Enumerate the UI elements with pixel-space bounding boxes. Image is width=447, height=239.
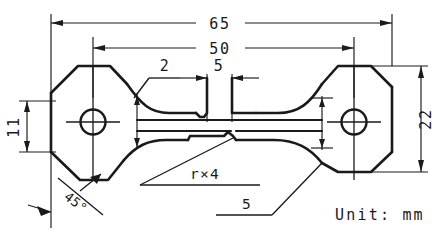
dimension-label-65: 65	[209, 15, 230, 33]
arrow-head	[418, 66, 424, 78]
engineering-drawing-canvas: 65 50 11 22 2 5	[0, 0, 447, 239]
note-bottom-5: 5	[216, 163, 322, 215]
arrow-head	[319, 98, 325, 107]
arrow-head	[380, 20, 392, 26]
arrow-head	[93, 45, 105, 51]
arrow-head	[24, 141, 30, 152]
dimension-5-top: 5	[180, 57, 259, 81]
arrow-head	[24, 101, 30, 112]
dimension-65: 65	[51, 15, 392, 33]
arrow-head	[342, 45, 354, 51]
dimension-50: 50	[93, 40, 354, 58]
unit-note: Unit: mm	[335, 206, 425, 224]
dimension-label-50: 50	[209, 40, 230, 58]
arrow-head	[196, 75, 207, 81]
note-label-45deg: 45°	[61, 189, 90, 216]
dimension-label-22: 22	[417, 108, 435, 129]
dimension-label-5-top: 5	[214, 57, 225, 75]
left-mounting-hole	[66, 66, 120, 180]
arrow-head	[319, 139, 325, 148]
note-radius: r×4	[140, 138, 260, 185]
dimension-22: 22	[417, 66, 435, 172]
arrow-head	[51, 20, 63, 26]
note-label-radius: r×4	[190, 166, 220, 182]
arrow-head	[418, 160, 424, 172]
specimen-outline-bottom	[51, 132, 392, 180]
right-mounting-hole	[327, 66, 381, 180]
dimension-label-11: 11	[5, 116, 23, 137]
technical-drawing: 65 50 11 22 2 5	[0, 0, 447, 239]
dimension-label-2: 2	[160, 57, 171, 75]
dimension-11: 11	[5, 101, 30, 152]
inner-edge-lines	[137, 120, 322, 131]
arrow-head	[232, 75, 243, 81]
note-label-bottom-5: 5	[242, 196, 252, 212]
